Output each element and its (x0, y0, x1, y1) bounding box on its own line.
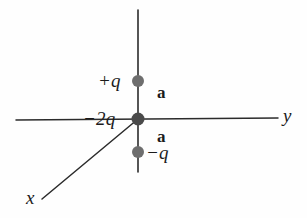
charge-dot-minus-2q (132, 113, 145, 126)
charge-dot-plus-q (132, 75, 144, 87)
label-positive-charge: +q (98, 71, 121, 90)
x-axis-line (42, 119, 138, 199)
label-axis-x: x (26, 188, 34, 207)
label-distance-lower: a (157, 128, 166, 145)
label-center-charge: −2q (83, 109, 115, 128)
charge-dot-minus-q (132, 146, 144, 158)
label-distance-upper: a (157, 84, 166, 101)
y-axis-line (16, 118, 278, 120)
label-axis-y: y (283, 106, 291, 125)
quadrupole-diagram: +q −2q −q a a y x (0, 0, 307, 218)
diagram-canvas (0, 0, 307, 218)
